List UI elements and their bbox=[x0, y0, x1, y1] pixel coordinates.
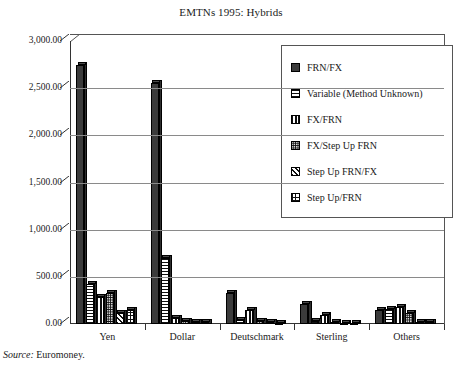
bar-side-face bbox=[94, 281, 97, 324]
legend-item[interactable]: FX/FRN bbox=[291, 106, 452, 132]
y-axis-tick bbox=[60, 81, 69, 88]
legend-item[interactable]: Variable (Method Unknown) bbox=[291, 80, 452, 106]
x-axis-tick-label: Dollar bbox=[145, 331, 220, 342]
x-axis-tick-label: Sterling bbox=[294, 331, 369, 342]
bar bbox=[300, 304, 308, 324]
bar-side-face bbox=[308, 301, 311, 324]
y-axis-tick bbox=[60, 317, 69, 324]
bar-side-face bbox=[84, 62, 87, 324]
x-axis-tick bbox=[369, 324, 370, 330]
x-axis-tick-label: Yen bbox=[70, 331, 145, 342]
legend-swatch-icon bbox=[291, 115, 300, 124]
x-axis-tick bbox=[444, 324, 445, 330]
bar-side-face bbox=[234, 290, 237, 324]
y-axis-tick bbox=[60, 270, 69, 277]
x-axis-tick bbox=[145, 324, 146, 330]
x-axis-tick bbox=[294, 324, 295, 330]
gridline bbox=[70, 135, 444, 136]
source-value: Euromoney. bbox=[36, 349, 85, 360]
y-axis-tick bbox=[60, 176, 69, 183]
legend-item-label: FRN/FX bbox=[307, 62, 342, 73]
y-axis-tick bbox=[60, 34, 69, 41]
legend-item-label: Step Up FRN/FX bbox=[307, 166, 377, 177]
legend-swatch-icon bbox=[291, 89, 300, 98]
legend-item[interactable]: FRN/FX bbox=[291, 54, 452, 80]
legend-item[interactable]: Step Up FRN/FX bbox=[291, 158, 452, 184]
legend-item-label: FX/Step Up FRN bbox=[307, 140, 377, 151]
legend-swatch-icon bbox=[291, 63, 300, 72]
legend-item-label: Step Up/FRN bbox=[307, 192, 362, 203]
source-note: Source: Euromoney. bbox=[3, 349, 85, 360]
gridline bbox=[70, 88, 444, 89]
legend-swatch-icon bbox=[291, 141, 300, 150]
legend-swatch-icon bbox=[291, 167, 300, 176]
bar-side-face bbox=[159, 80, 162, 324]
legend-item[interactable]: Step Up/FRN bbox=[291, 184, 452, 210]
y-axis-tick bbox=[60, 128, 69, 135]
chart-figure: EMTNs 1995: Hybrids 3,000.002,500.002,00… bbox=[0, 0, 462, 367]
gridline bbox=[70, 183, 444, 184]
legend-item-label: FX/FRN bbox=[307, 114, 342, 125]
bar-side-face bbox=[114, 290, 117, 324]
bar bbox=[76, 65, 84, 324]
x-axis-tick-label: Deutschmark bbox=[220, 331, 295, 342]
bar bbox=[375, 310, 383, 324]
gridline bbox=[70, 277, 444, 278]
legend-swatch-icon bbox=[291, 193, 300, 202]
bar-side-face bbox=[169, 255, 172, 324]
bar bbox=[151, 83, 159, 324]
gridline bbox=[70, 230, 444, 231]
x-axis-tick-label: Others bbox=[369, 331, 444, 342]
x-axis-tick bbox=[220, 324, 221, 330]
bar bbox=[226, 293, 234, 324]
y-axis-tick bbox=[60, 223, 69, 230]
source-label: Source: bbox=[3, 349, 34, 360]
bar-side-face bbox=[104, 294, 107, 324]
chart-legend: FRN/FXVariable (Method Unknown)FX/FRNFX/… bbox=[281, 45, 453, 218]
